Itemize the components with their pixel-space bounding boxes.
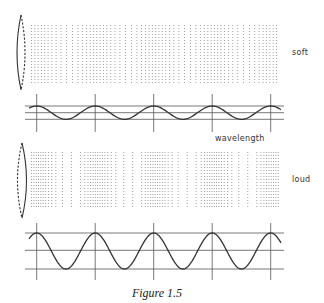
- air-particle: [136, 52, 137, 53]
- air-particle: [260, 203, 261, 204]
- air-particle: [216, 167, 217, 168]
- air-particle: [44, 46, 45, 47]
- air-particle: [263, 43, 264, 44]
- air-particle: [44, 82, 45, 83]
- air-particle: [209, 197, 210, 198]
- air-particle: [38, 55, 39, 56]
- air-particle: [269, 79, 270, 80]
- air-particle: [38, 152, 39, 153]
- air-particle: [48, 55, 49, 56]
- air-particle: [207, 76, 208, 77]
- air-particle: [254, 76, 255, 77]
- air-particle: [184, 52, 185, 53]
- air-particle: [38, 34, 39, 35]
- air-particle: [259, 25, 260, 26]
- air-particle: [90, 185, 91, 186]
- air-particle: [271, 158, 272, 159]
- air-particle: [211, 64, 212, 65]
- air-particle: [84, 167, 85, 168]
- air-particle: [263, 79, 264, 80]
- air-particle: [100, 46, 101, 47]
- air-particle: [276, 52, 277, 53]
- air-particle: [247, 203, 248, 204]
- air-particle: [158, 67, 159, 68]
- air-particle: [214, 25, 215, 26]
- air-particle: [178, 176, 179, 177]
- air-particle: [61, 34, 62, 35]
- air-particle: [158, 25, 159, 26]
- air-particle: [100, 158, 101, 159]
- air-particle: [88, 203, 89, 204]
- air-particle: [104, 200, 105, 201]
- air-particle: [56, 67, 57, 68]
- air-particle: [232, 31, 233, 32]
- air-particle: [228, 49, 229, 50]
- air-particle: [84, 155, 85, 156]
- air-particle: [45, 194, 46, 195]
- air-particle: [221, 25, 222, 26]
- air-particle: [36, 161, 37, 162]
- air-particle: [218, 152, 219, 153]
- air-particle: [237, 67, 238, 68]
- air-particle: [31, 79, 32, 80]
- air-particle: [45, 188, 46, 189]
- air-particle: [150, 203, 151, 204]
- air-particle: [48, 58, 49, 59]
- air-particle: [72, 70, 73, 71]
- air-particle: [115, 173, 116, 174]
- air-particle: [152, 55, 153, 56]
- air-particle: [125, 76, 126, 77]
- air-particle: [125, 70, 126, 71]
- air-particle: [90, 200, 91, 201]
- air-particle: [86, 52, 87, 53]
- air-particle: [237, 55, 238, 56]
- air-particle: [51, 58, 52, 59]
- air-particle: [145, 191, 146, 192]
- air-particle: [51, 197, 52, 198]
- air-particle: [61, 43, 62, 44]
- air-particle: [96, 46, 97, 47]
- air-particle: [132, 191, 133, 192]
- air-particle: [231, 161, 232, 162]
- air-particle: [40, 176, 41, 177]
- air-particle: [204, 31, 205, 32]
- air-particle: [104, 167, 105, 168]
- air-particle: [104, 161, 105, 162]
- air-particle: [115, 76, 116, 77]
- air-particle: [256, 203, 257, 204]
- air-particle: [207, 155, 208, 156]
- air-particle: [71, 185, 72, 186]
- air-particle: [271, 164, 272, 165]
- air-particle: [86, 61, 87, 62]
- air-particle: [172, 176, 173, 177]
- air-particle: [216, 185, 217, 186]
- air-particle: [145, 43, 146, 44]
- air-particle: [249, 70, 250, 71]
- air-particle: [44, 40, 45, 41]
- air-particle: [31, 182, 32, 183]
- air-particle: [178, 191, 179, 192]
- air-particle: [254, 70, 255, 71]
- air-particle: [93, 191, 94, 192]
- air-particle: [41, 58, 42, 59]
- air-particle: [190, 52, 191, 53]
- air-particle: [141, 79, 142, 80]
- air-particle: [148, 182, 149, 183]
- air-particle: [136, 43, 137, 44]
- air-particle: [204, 52, 205, 53]
- air-particle: [33, 164, 34, 165]
- air-particle: [224, 203, 225, 204]
- air-particle: [93, 155, 94, 156]
- air-particle: [162, 173, 163, 174]
- air-particle: [132, 182, 133, 183]
- air-particle: [224, 79, 225, 80]
- air-particle: [95, 161, 96, 162]
- air-particle: [243, 49, 244, 50]
- air-particle: [162, 161, 163, 162]
- air-particle: [34, 37, 35, 38]
- air-particle: [278, 188, 279, 189]
- air-particle: [93, 25, 94, 26]
- air-particle: [169, 52, 170, 53]
- air-particle: [102, 170, 103, 171]
- air-particle: [211, 31, 212, 32]
